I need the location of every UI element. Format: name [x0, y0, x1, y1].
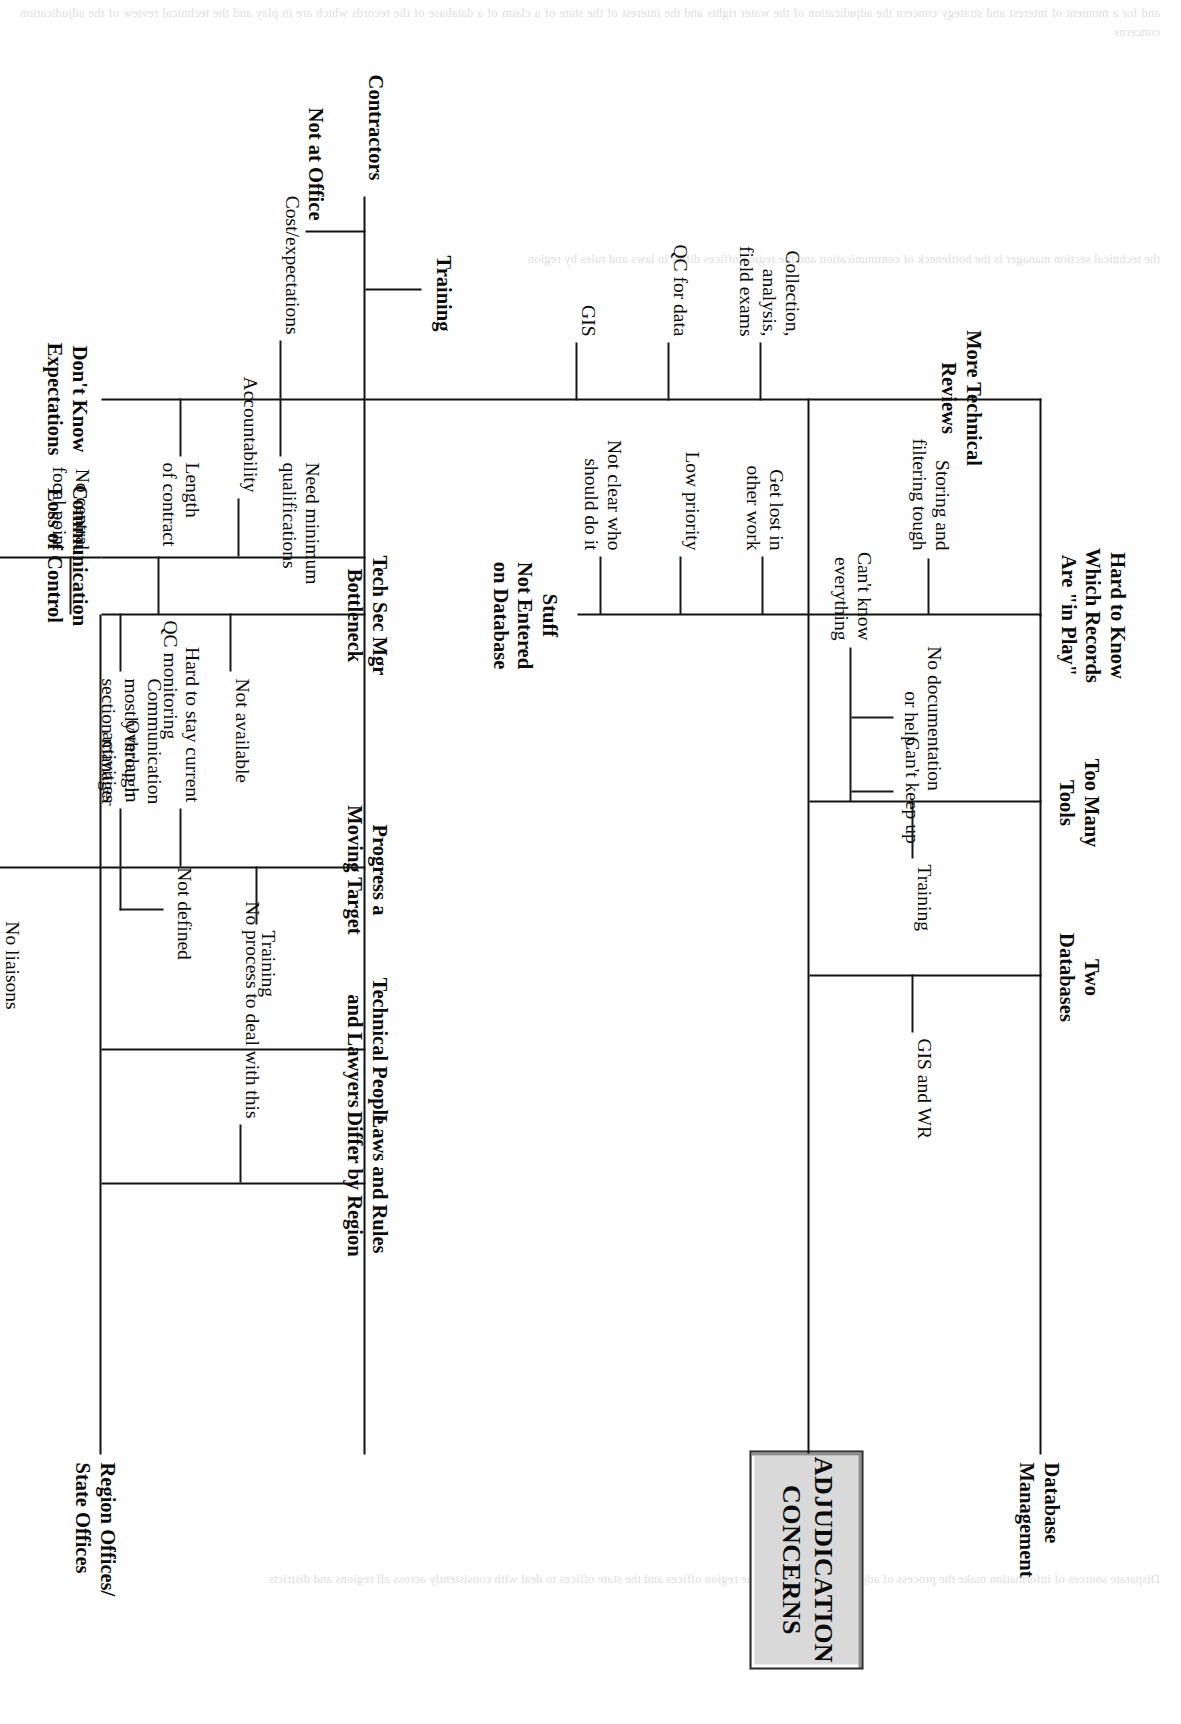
- sub-no-central-focal-label: No central focal point: [47, 390, 93, 550]
- sub-no-central-focal-bone: [69, 556, 71, 614]
- sub-cost-expectations-bone: [279, 340, 281, 398]
- spine-upper-secondary-riser: [809, 398, 1041, 400]
- sub-gis-bone: [575, 342, 577, 400]
- cause-stuff-not-entered-label: Stuff Not Entered on Database: [487, 520, 561, 710]
- sub-qc-monitoring-bone: [157, 556, 159, 614]
- sub-get-lost-bone: [761, 556, 763, 614]
- cause-hard-to-know-label: Hard to Know Which Records Are "in Play": [1055, 520, 1129, 710]
- spine-upper-secondary: [1039, 398, 1041, 616]
- sub-tools-training-label: Training: [912, 864, 935, 1014]
- cause-tech-sec-mgr-bone: [101, 613, 365, 615]
- cause-disparate-sources-bone: [0, 556, 101, 558]
- sub-accountability-label: Accountability: [238, 330, 261, 492]
- cause-differences-between-bone: [0, 866, 101, 868]
- spine-database-management-label: Database Management: [1014, 1462, 1063, 1632]
- main-spine: [807, 398, 809, 1453]
- sub-not-defined-bone: [119, 908, 163, 910]
- sub-length-of-contract-bone: [179, 398, 181, 456]
- spine-region-state-offices-label: Region Offices/ State Offices: [70, 1462, 119, 1662]
- cause-technical-people-lawyers-bone: [101, 1048, 365, 1050]
- cause-tech-sec-mgr-label: Tech Sec Mgr Bottleneck: [342, 520, 391, 710]
- cause-two-databases-label: Two Databases: [1054, 892, 1103, 1062]
- cause-communication-loss-bone: [101, 556, 365, 558]
- sub-not-available-label: Not available: [230, 678, 253, 848]
- sub-contractors-training-bone: [365, 288, 421, 290]
- sub-storing-filtering-bone: [927, 558, 929, 614]
- sub-not-clear-who-label: Not clear who should do it: [579, 360, 625, 550]
- sub-cant-know-bone: [849, 647, 851, 801]
- sub-not-clear-who-bone: [599, 556, 601, 614]
- cause-laws-rules-differ-bone: [101, 1182, 365, 1184]
- cause-two-databases-bone: [809, 974, 1041, 976]
- sub-overlap-activities-bone: [119, 808, 121, 866]
- sub-collection-analysis-bone: [759, 342, 761, 400]
- sub-collection-analysis-label: Collection, analysis, field exams: [734, 170, 803, 336]
- cause-stuff-not-entered-bone: [577, 613, 809, 615]
- sub-overlap-activities-label: Overlap in activities: [97, 640, 143, 802]
- sub-qc-for-data-label: QC for data: [668, 176, 691, 336]
- sub-cost-expectations-label: Cost/expectations: [280, 150, 303, 334]
- cause-more-technical-reviews-label: More Technical Reviews: [936, 300, 985, 495]
- sub-need-minimum-quals-bone: [279, 398, 281, 456]
- sub-no-process-deal-bone: [239, 1124, 241, 1182]
- sub-hard-stay-current-label: Hard to stay current: [180, 610, 203, 802]
- sub-no-liaisons-label: No liaisons with region offices: [0, 890, 23, 1040]
- sub-qc-for-data-bone: [667, 342, 669, 400]
- cause-progress-moving-target-label: Progress a Moving Target: [342, 772, 391, 967]
- sub-contractors-training-label: Training: [430, 218, 455, 368]
- sub-low-priority-bone: [679, 556, 681, 614]
- sub-not-available-bone: [229, 613, 231, 671]
- cause-dont-know-expectations-bone: [101, 398, 365, 400]
- cause-not-at-office-bone: [305, 230, 365, 232]
- cause-more-technical-reviews-bone: [365, 398, 809, 400]
- sub-gis-and-wr-bone: [911, 974, 913, 1032]
- head-box: ADJUDICATION CONCERNS: [749, 1450, 863, 1669]
- sub-gis-label: GIS: [576, 196, 599, 336]
- sub-cant-know-label: Can't know everything: [829, 470, 875, 640]
- sub-no-process-deal-label: No process to deal with this: [240, 840, 263, 1118]
- sub-get-lost-label: Get lost in other work: [741, 360, 787, 550]
- sub-cant-keep-up-bone: [851, 790, 893, 792]
- cause-progress-moving-target-bone: [101, 866, 365, 868]
- cause-contractors-label: Contractors: [362, 20, 387, 180]
- sub-not-defined-connector: [119, 866, 121, 910]
- cause-not-at-office-label: Not at Office: [302, 60, 327, 220]
- cause-too-many-tools-label: Too Many Tools: [1054, 715, 1103, 890]
- sub-low-priority-label: Low priority: [680, 380, 703, 550]
- sub-accountability-bone: [237, 498, 239, 556]
- cause-laws-rules-differ-label: Laws and Rules Differ by Region: [342, 1076, 391, 1291]
- sub-gis-and-wr-label: GIS and WR: [912, 1038, 935, 1188]
- sub-no-documentation-bone: [851, 716, 893, 718]
- spine-database-management: [1039, 614, 1041, 1454]
- fishbone-diagram: ADJUDICATION CONCERNS Database Managemen…: [0, 0, 1181, 1724]
- sub-not-defined-label: Not defined: [172, 848, 195, 978]
- sub-length-of-contract-label: Length of contract: [157, 462, 203, 632]
- sub-tools-training-bone: [911, 800, 913, 858]
- head-label: ADJUDICATION CONCERNS: [774, 1452, 839, 1667]
